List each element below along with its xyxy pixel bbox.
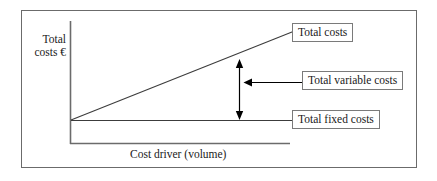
callout-total-costs: Total costs [292, 23, 353, 42]
figure-canvas: Total costs € Cost driver (volume) Total… [0, 0, 437, 181]
callout-total-fixed-costs: Total fixed costs [292, 110, 380, 129]
variable-costs-arrowhead-up [236, 59, 243, 68]
x-axis-label: Cost driver (volume) [130, 148, 226, 161]
y-axis-label: Total costs € [32, 33, 66, 59]
callout-total-variable-costs: Total variable costs [302, 71, 403, 90]
variable-costs-leader-arrowhead [244, 79, 253, 87]
total-costs-line [71, 30, 297, 120]
variable-costs-arrowhead-down [236, 111, 243, 120]
